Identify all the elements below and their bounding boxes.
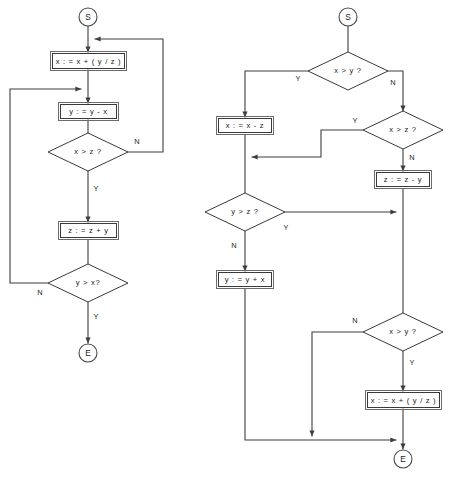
- right-decision-4: x > y ? N Y: [352, 313, 443, 367]
- left-decision-1-label: x > z ?: [74, 147, 101, 156]
- right-decision-1: x > y ? Y N: [296, 52, 396, 90]
- right-decision-1-no-label: N: [390, 78, 395, 87]
- right-start-terminal: S: [339, 8, 357, 26]
- left-decision-1: x > z ? N Y: [48, 133, 140, 193]
- right-decision-2-no-label: N: [409, 153, 414, 162]
- right-edges: [245, 26, 403, 449]
- right-decision-3-yes-label: Y: [284, 223, 289, 232]
- left-process-3: z : = z + y: [59, 222, 119, 240]
- right-decision-3-label: y > z ?: [231, 207, 258, 216]
- left-start-label: S: [85, 12, 91, 22]
- left-end-terminal: E: [79, 344, 97, 362]
- left-process-1: x : = x + ( y / z ): [51, 52, 127, 71]
- right-process-3: y : = y + x: [217, 271, 274, 289]
- right-decision-4-label: x > y ?: [389, 327, 416, 336]
- right-decision-4-yes-label: Y: [410, 358, 415, 367]
- right-process-1-label: x : = x - z: [226, 121, 265, 130]
- right-process-1: x : = x - z: [217, 117, 274, 135]
- left-flowchart: S x : = x + ( y / z ) y : = y - x x > z …: [10, 8, 163, 362]
- right-decision-4-no-label: N: [352, 316, 357, 325]
- left-decision-2-yes-label: Y: [94, 312, 99, 321]
- left-start-terminal: S: [79, 8, 97, 26]
- right-end-terminal: E: [394, 450, 412, 468]
- right-process-4: x : = x + ( y / z ): [366, 391, 442, 410]
- left-process-2-label: y : = y - x: [69, 107, 108, 116]
- left-decision-2-no-label: N: [37, 288, 42, 297]
- right-decision-2-label: x > z ?: [389, 125, 416, 134]
- r-edge-d4-no-to-bottom-bus: [312, 332, 363, 436]
- right-process-4-label: x : = x + ( y / z ): [371, 396, 437, 405]
- right-flowchart: S x > y ? Y N x : = x - z x > z ? Y N z …: [205, 8, 443, 468]
- left-process-2: y : = y - x: [59, 103, 119, 121]
- right-decision-2-yes-label: Y: [353, 116, 358, 125]
- r-edge-p3-to-bottom-bus: [245, 289, 396, 440]
- right-process-3-label: y : = y + x: [225, 275, 266, 284]
- right-process-2-label: z : = z - y: [384, 175, 423, 184]
- right-decision-1-label: x > y ?: [334, 66, 361, 75]
- left-decision-2: y > x? N Y: [37, 264, 128, 321]
- left-process-3-label: z : = z + y: [68, 226, 109, 235]
- left-process-1-label: x : = x + ( y / z ): [56, 57, 122, 66]
- right-process-2: z : = z - y: [375, 171, 432, 189]
- right-end-label: E: [400, 454, 406, 464]
- right-decision-2: x > z ? Y N: [353, 111, 443, 162]
- left-end-label: E: [85, 348, 91, 358]
- left-decision-1-no-label: N: [134, 137, 139, 146]
- right-start-label: S: [345, 12, 351, 22]
- right-decision-3: y > z ? Y N: [205, 193, 289, 250]
- right-decision-1-yes-label: Y: [296, 74, 301, 83]
- right-decision-3-no-label: N: [231, 241, 236, 250]
- flowchart-canvas: S x : = x + ( y / z ) y : = y - x x > z …: [0, 0, 450, 485]
- left-decision-1-yes-label: Y: [94, 184, 99, 193]
- left-decision-2-label: y > x?: [76, 278, 101, 287]
